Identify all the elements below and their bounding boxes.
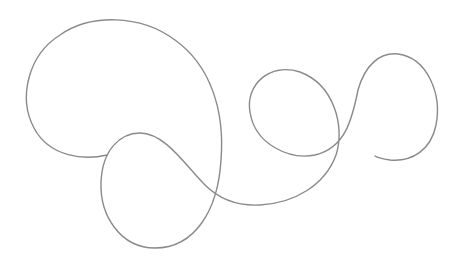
curve-drawing xyxy=(0,0,459,262)
looping-curve-path xyxy=(26,20,437,248)
